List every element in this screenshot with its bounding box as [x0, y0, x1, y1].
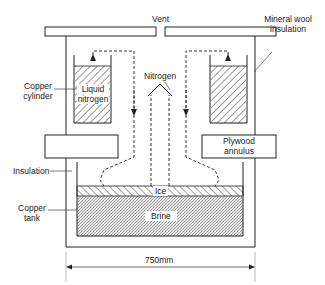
arrow-up-icon: [225, 54, 231, 61]
label-brine: Brine: [145, 211, 177, 221]
label-copper-cylinder: Copper cylinder: [18, 81, 58, 101]
copper-cylinder-right: [210, 55, 247, 123]
label-copper-tank: Copper tank: [14, 203, 50, 223]
cryogenic-tank-diagram: [0, 0, 325, 285]
arrow-up-icon: [90, 54, 96, 61]
label-insulation: Insulation: [13, 166, 49, 176]
lid: [45, 27, 276, 36]
label-mineral-wool-insulation: Mineral wool insulation: [255, 14, 321, 34]
label-nitrogen: Nitrogen: [144, 71, 176, 81]
arrow-down-icon: [131, 109, 137, 116]
plywood-annulus-left: [45, 135, 118, 158]
label-liquid-nitrogen: Liquid nitrogen: [77, 84, 109, 104]
label-plywood-annulus: Plywood annulus: [202, 136, 276, 156]
label-vent: Vent: [152, 14, 169, 24]
arrow-down-icon: [183, 109, 189, 116]
label-dimension: 750mm: [145, 255, 173, 265]
lid-left-plate: [45, 27, 156, 36]
label-ice: Ice: [153, 186, 168, 196]
nitrogen-rising-arrow: [148, 84, 172, 96]
